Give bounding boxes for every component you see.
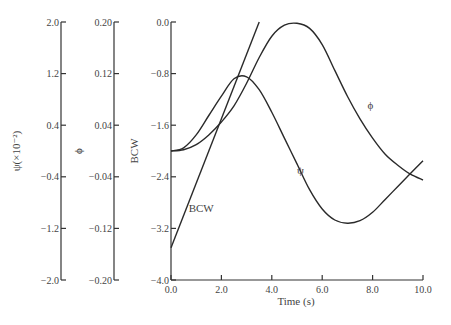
y-tick-label: 0.0 bbox=[157, 17, 170, 28]
y-tick-label: 0.20 bbox=[95, 17, 113, 28]
x-axis: 0.02.04.06.08.010.0 bbox=[165, 275, 432, 295]
bcw-curve-label: BCW bbox=[189, 202, 215, 214]
psi-axis-title: ψ(×10⁻²) bbox=[10, 130, 23, 171]
phi-axis-title: ϕ bbox=[72, 148, 84, 154]
bcw-axis-title: BCW bbox=[128, 138, 140, 164]
chart: 2.01.20.4−0.4−1.2−2.0 ψ(×10⁻²) 0.200.120… bbox=[0, 0, 451, 325]
y-tick-label: −0.20 bbox=[89, 275, 112, 286]
y-tick-label: 0.12 bbox=[95, 68, 113, 79]
y-tick-label: 0.4 bbox=[47, 120, 60, 131]
y-tick-label: −2.4 bbox=[151, 171, 169, 182]
x-tick-label: 8.0 bbox=[366, 284, 379, 295]
y-tick-label: −0.12 bbox=[89, 223, 112, 234]
x-tick-label: 10.0 bbox=[414, 284, 432, 295]
x-tick-label: 2.0 bbox=[215, 284, 228, 295]
y-tick-label: −2.0 bbox=[41, 275, 59, 286]
x-tick-label: 6.0 bbox=[316, 284, 329, 295]
bcw-curve bbox=[171, 22, 259, 248]
y-tick-label: −0.8 bbox=[151, 68, 169, 79]
y-tick-label: −1.6 bbox=[151, 120, 169, 131]
psi-axis: 2.01.20.4−0.4−1.2−2.0 bbox=[41, 17, 66, 286]
x-axis-title: Time (s) bbox=[277, 295, 315, 308]
y-tick-label: −0.04 bbox=[89, 171, 112, 182]
x-tick-label: 0.0 bbox=[165, 284, 178, 295]
x-tick-label: 4.0 bbox=[266, 284, 279, 295]
y-tick-label: −3.2 bbox=[151, 223, 169, 234]
phi-axis: 0.200.120.04−0.04−0.12−0.20 bbox=[89, 17, 119, 286]
psi-curve-label: ψ bbox=[297, 164, 304, 176]
y-tick-label: −1.2 bbox=[41, 223, 59, 234]
y-tick-label: 1.2 bbox=[47, 68, 60, 79]
phi-curve-label: ϕ bbox=[368, 99, 374, 111]
y-tick-label: −0.4 bbox=[41, 171, 59, 182]
y-tick-label: 2.0 bbox=[47, 17, 60, 28]
phi-curve bbox=[171, 23, 423, 180]
y-tick-label: 0.04 bbox=[95, 120, 113, 131]
